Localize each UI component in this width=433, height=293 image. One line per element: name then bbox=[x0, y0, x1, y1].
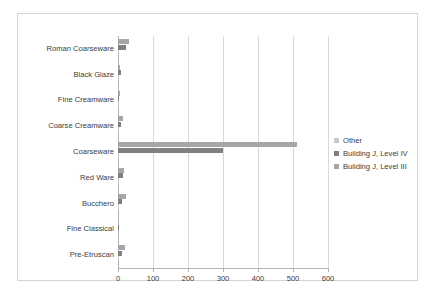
bar bbox=[118, 194, 126, 199]
bar bbox=[118, 148, 223, 153]
bar-group bbox=[118, 165, 328, 191]
x-tick-label: 0 bbox=[98, 274, 138, 284]
bar bbox=[118, 39, 129, 44]
category-label: Coarseware bbox=[73, 147, 114, 157]
bar-group bbox=[118, 113, 328, 139]
legend-swatch-icon bbox=[334, 151, 339, 156]
chart-frame: Roman CoarsewareBlack GlazeFine Creamwar… bbox=[17, 13, 418, 281]
legend-label: Building J, Level III bbox=[343, 162, 407, 172]
x-tick-label: 500 bbox=[273, 274, 313, 284]
bar-group bbox=[118, 216, 328, 242]
bar bbox=[118, 168, 124, 173]
legend-label: Other bbox=[343, 136, 362, 146]
bar bbox=[118, 45, 126, 50]
x-tick-label: 100 bbox=[133, 274, 173, 284]
category-axis-labels: Roman CoarsewareBlack GlazeFine Creamwar… bbox=[18, 36, 114, 268]
legend-item[interactable]: Other bbox=[334, 134, 418, 147]
category-label: Black Glaze bbox=[73, 70, 114, 80]
x-tick-label: 200 bbox=[168, 274, 208, 284]
bar bbox=[118, 225, 119, 230]
bar bbox=[118, 96, 119, 101]
legend-item[interactable]: Building J, Level IV bbox=[334, 147, 418, 160]
bar bbox=[118, 199, 122, 204]
legend-label: Building J, Level IV bbox=[343, 149, 408, 159]
bar bbox=[118, 251, 122, 256]
plot-area bbox=[118, 36, 328, 268]
bar-group bbox=[118, 242, 328, 268]
category-label: Fine Classical bbox=[67, 224, 114, 234]
x-tick-mark bbox=[153, 268, 154, 272]
x-tick-mark bbox=[188, 268, 189, 272]
x-tick-mark bbox=[223, 268, 224, 272]
bar bbox=[118, 122, 121, 127]
bar bbox=[118, 65, 120, 70]
bar bbox=[118, 116, 123, 121]
legend-swatch-icon bbox=[334, 164, 339, 169]
bar-group bbox=[118, 139, 328, 165]
x-tick-label: 300 bbox=[203, 274, 243, 284]
category-label: Red Ware bbox=[80, 173, 114, 183]
legend-item[interactable]: Building J, Level III bbox=[334, 160, 418, 173]
x-tick-mark bbox=[118, 268, 119, 272]
x-tick-mark bbox=[328, 268, 329, 272]
bar bbox=[118, 91, 120, 96]
category-label: Roman Coarseware bbox=[46, 44, 114, 54]
bar-group bbox=[118, 88, 328, 114]
bar bbox=[118, 173, 123, 178]
x-tick-mark bbox=[293, 268, 294, 272]
x-tick-mark bbox=[258, 268, 259, 272]
x-tick-label: 400 bbox=[238, 274, 278, 284]
x-tick-label: 600 bbox=[308, 274, 348, 284]
bar-group bbox=[118, 36, 328, 62]
gridline-600 bbox=[328, 36, 329, 268]
category-label: Pre-Etruscan bbox=[70, 250, 114, 260]
chart-legend: OtherBuilding J, Level IVBuilding J, Lev… bbox=[334, 134, 418, 173]
category-label: Coarse Creamware bbox=[48, 121, 114, 131]
category-label: Bucchero bbox=[82, 199, 114, 209]
bar bbox=[118, 245, 125, 250]
bar-group bbox=[118, 62, 328, 88]
bar-group bbox=[118, 191, 328, 217]
category-label: Fine Creamware bbox=[58, 95, 114, 105]
legend-swatch-icon bbox=[334, 138, 339, 143]
bar bbox=[118, 50, 119, 55]
bar bbox=[118, 70, 121, 75]
bar bbox=[118, 205, 119, 210]
bar bbox=[118, 153, 119, 158]
bar bbox=[118, 142, 297, 147]
